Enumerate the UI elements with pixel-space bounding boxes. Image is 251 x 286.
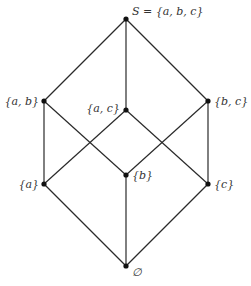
node-label-b: {b} [132,169,153,182]
edge-S-ab [44,19,126,101]
node-label-empty: ∅ [132,266,142,279]
node-S [123,16,128,21]
edge-c-empty [126,184,208,266]
edges-group [44,19,208,266]
edge-a-empty [44,184,126,266]
node-label-bc: {b, c} [214,95,248,108]
node-b [123,172,128,177]
node-label-S: S = {a, b, c} [132,5,204,18]
node-a [41,181,46,186]
hasse-diagram: S = {a, b, c}{a, b}{a, c}{b, c}{a}{b}{c}… [0,0,251,286]
node-empty [123,263,128,268]
edge-bc-b [126,101,208,175]
node-label-ac: {a, c} [86,102,120,115]
node-bc [205,98,210,103]
node-label-a: {a} [18,178,39,191]
node-c [205,181,210,186]
node-ac [123,107,128,112]
node-label-ab: {a, b} [4,95,39,108]
node-ab [41,98,46,103]
edge-ac-a [44,110,126,184]
edge-S-bc [126,19,208,101]
node-label-c: {c} [214,178,234,191]
